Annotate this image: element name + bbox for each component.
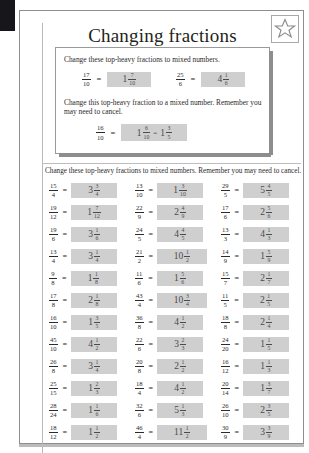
answer-whole: 4: [88, 339, 93, 349]
answer-fraction: 23: [180, 337, 186, 351]
answer-fraction: 45: [180, 227, 186, 241]
answer-chip[interactable]: 215: [243, 293, 289, 308]
answer-chip[interactable]: 412: [157, 381, 203, 396]
example-question-fraction: 16 10: [96, 124, 105, 140]
problem-row: 212=1012: [129, 245, 215, 267]
answer-fraction: 12: [94, 337, 100, 351]
answer-chip[interactable]: 249: [157, 205, 203, 220]
answer-whole: 1: [174, 273, 179, 283]
answer-whole: 4: [174, 229, 179, 239]
question-fraction: 98: [49, 270, 57, 286]
answer-fraction: 14: [94, 249, 100, 263]
answer-whole: 3: [88, 361, 93, 371]
problem-row: 149=159: [215, 245, 301, 267]
answer-chip[interactable]: 334: [71, 183, 117, 198]
answer-whole: 3: [174, 339, 179, 349]
equals-sign: =: [63, 186, 68, 195]
answer-chip[interactable]: 118: [71, 271, 117, 286]
answer-chip[interactable]: 212: [157, 359, 203, 374]
answer-chip[interactable]: 123: [71, 381, 117, 396]
answer-chip[interactable]: 1712: [71, 205, 117, 220]
answer-chip[interactable]: 339: [243, 425, 289, 440]
answer-chip[interactable]: 1012: [157, 249, 207, 264]
star-box[interactable]: [271, 15, 299, 43]
problem-row: 368=412: [129, 311, 215, 333]
answer-chip[interactable]: 314: [71, 249, 117, 264]
answer-chip[interactable]: 1310: [157, 183, 203, 198]
problem-row: 326=513: [129, 399, 215, 421]
answer-whole: 4: [260, 229, 265, 239]
problem-row: 208=212: [129, 355, 215, 377]
question-fraction: 208: [135, 358, 144, 374]
equals-sign: =: [235, 406, 240, 415]
answer-chip[interactable]: 115: [243, 337, 289, 352]
answer-chip[interactable]: 217: [243, 271, 289, 286]
answer-chip[interactable]: 412: [71, 337, 117, 352]
answer-fraction: 12: [180, 381, 186, 395]
equals-sign: =: [235, 340, 240, 349]
answer-fraction-uncancelled: 6 10: [143, 125, 151, 139]
answer-chip[interactable]: 413: [243, 227, 289, 242]
answer-whole: 2: [174, 207, 179, 217]
answer-chip[interactable]: 314: [71, 359, 117, 374]
question-fraction: 176: [221, 204, 230, 220]
equals-sign: =: [63, 362, 68, 371]
answer-fraction: 12: [184, 425, 190, 439]
example-question-fraction: 17 10: [82, 71, 91, 87]
equals-sign: =: [63, 252, 68, 261]
problem-row: 226=323: [129, 333, 215, 355]
answer-chip[interactable]: 137: [243, 381, 289, 396]
example-answer-chip: 1 7 10: [107, 72, 151, 87]
answer-chip[interactable]: 256: [243, 205, 289, 220]
answer-chip[interactable]: 159: [243, 249, 289, 264]
answer-fraction: 1 6: [223, 72, 229, 86]
equals-sign: =: [63, 296, 68, 305]
answer-chip[interactable]: 445: [157, 227, 203, 242]
answer-chip[interactable]: 112: [71, 425, 117, 440]
problem-row: 2824=116: [43, 399, 129, 421]
problem-row: 2515=123: [43, 377, 129, 399]
equals-sign: =: [63, 340, 68, 349]
answer-chip[interactable]: 218: [71, 293, 117, 308]
panel-shadow-right: [269, 51, 273, 155]
answer-fraction: 34: [184, 293, 190, 307]
answer-chip[interactable]: 116: [71, 403, 117, 418]
answer-chip[interactable]: 113: [243, 359, 289, 374]
answer-fraction-cancelled: 3 5: [166, 125, 172, 139]
answer-chip[interactable]: 1112: [157, 425, 207, 440]
problem-row: 229=249: [129, 201, 215, 223]
problem-row: 116=156: [129, 267, 215, 289]
example-instruction-2: Change this top-heavy fraction to a mixe…: [64, 98, 262, 117]
equals-sign: =: [153, 129, 157, 137]
equals-sign: =: [235, 362, 240, 371]
answer-chip[interactable]: 214: [243, 315, 289, 330]
question-fraction: 115: [221, 292, 229, 308]
answer-fraction: 37: [266, 381, 272, 395]
problem-row: 1612=113: [215, 355, 301, 377]
answer-chip[interactable]: 545: [243, 183, 289, 198]
answer-chip[interactable]: 1034: [157, 293, 207, 308]
answer-whole: 2: [174, 361, 179, 371]
answer-chip[interactable]: 156: [157, 271, 203, 286]
answer-fraction: 16: [94, 227, 100, 241]
answer-whole: 3: [88, 229, 93, 239]
question-fraction: 464: [135, 424, 144, 440]
answer-chip[interactable]: 412: [157, 315, 203, 330]
answer-chip[interactable]: 513: [157, 403, 203, 418]
answer-fraction: 35: [94, 315, 100, 329]
equals-sign: =: [149, 384, 154, 393]
answer-whole: 10: [174, 251, 184, 261]
question-fraction: 245: [135, 226, 144, 242]
answer-whole: 4: [174, 383, 179, 393]
answer-chip[interactable]: 316: [71, 227, 117, 242]
answer-chip[interactable]: 323: [157, 337, 203, 352]
answer-fraction: 15: [266, 293, 272, 307]
problem-grid: 154=3341912=1712196=316134=31498=118178=…: [43, 179, 301, 443]
problem-row: 2610=235: [215, 399, 301, 421]
answer-chip[interactable]: 135: [71, 315, 117, 330]
answer-fraction: 34: [94, 183, 100, 197]
answer-chip[interactable]: 235: [243, 403, 289, 418]
question-fraction: 229: [135, 204, 144, 220]
question-fraction: 309: [221, 424, 230, 440]
example-answer-chip: 4 1 6: [201, 72, 245, 87]
